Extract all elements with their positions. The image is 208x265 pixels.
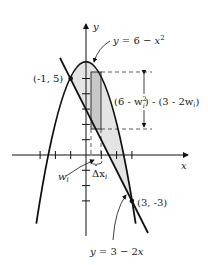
left-intersection-label: (-1, 5) [33,73,63,84]
y-axis-label: y [92,21,99,32]
w-label-pointer [66,160,94,176]
line-label-pointer [113,195,126,240]
right-intersection-label: (3, -3) [137,197,167,208]
parabola-label-pointer [94,41,110,62]
parabola-equation-label: y = 6 − x2 [112,34,165,46]
intersection-point-left [68,76,73,81]
intersection-point-right [130,199,135,204]
rectangle-height-label: (6 - w2i) - (3 - 2wi) [114,95,199,110]
delta-x-brace [90,161,102,166]
line-equation-label: y = 3 − 2x [89,246,144,257]
w-i-label: wi [58,171,69,184]
representative-rectangle [91,72,101,129]
area-between-curves-diagram: y x y = 6 − x2 (-1, 5) (3, -3) (6 - w2i)… [0,0,208,265]
delta-x-label: Δxi [92,168,107,181]
x-axis-label: x [181,160,187,171]
